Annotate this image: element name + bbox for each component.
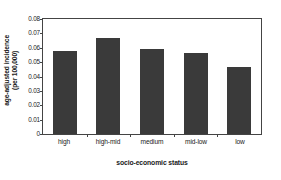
y-axis-tick-label: 0.04 (28, 72, 40, 79)
y-axis-tick-mark (40, 77, 43, 78)
x-axis-tick-label: low (218, 138, 262, 146)
x-axis-tick-label: high-mid (86, 138, 130, 146)
y-axis-tick-mark (40, 48, 43, 49)
y-axis-tick-label: 0.01 (28, 115, 40, 122)
y-axis-tick-label: 0.02 (28, 101, 40, 108)
bar (53, 51, 77, 134)
y-axis-tick-mark (40, 105, 43, 106)
x-axis-tick-label: medium (130, 138, 174, 146)
x-axis-tick-label: mid-low (174, 138, 218, 146)
y-axis-title-line1: age-adjusted incidence (3, 35, 11, 106)
x-axis-tick-mark (87, 134, 88, 137)
x-axis-tick-mark (130, 134, 131, 137)
bar (184, 53, 208, 134)
y-axis-tick-label: 0.08 (28, 15, 40, 22)
y-axis-tick-label: 0 (37, 130, 40, 137)
bar-slot (43, 19, 87, 134)
y-axis-tick-mark (40, 91, 43, 92)
bar-slot (87, 19, 131, 134)
y-axis-tick-mark (40, 33, 43, 34)
x-axis-tick-mark (217, 134, 218, 137)
x-axis-tick-labels: highhigh-midmediummid-lowlow (42, 138, 262, 146)
y-axis-tick-label: 0.05 (28, 58, 40, 65)
y-axis-tick-labels: 00.010.020.030.040.050.060.070.08 (18, 18, 40, 135)
bar-chart-figure: age-adjusted incidence (per 100,000) 00.… (0, 0, 281, 180)
bar-slot (130, 19, 174, 134)
x-axis-tick-mark (174, 134, 175, 137)
bar (227, 67, 251, 134)
bar-slot (174, 19, 218, 134)
y-axis-tick-mark (40, 19, 43, 20)
y-axis-tick-mark (40, 134, 43, 135)
y-axis-tick-label: 0.07 (28, 29, 40, 36)
x-axis-tick-label: high (42, 138, 86, 146)
y-axis-tick-label: 0.03 (28, 86, 40, 93)
y-axis-tick-mark (40, 62, 43, 63)
bar (140, 49, 164, 134)
y-axis-tick-mark (40, 120, 43, 121)
y-axis-tick-label: 0.06 (28, 43, 40, 50)
bar-slot (217, 19, 261, 134)
plot-area (42, 18, 262, 135)
x-axis-title: socio-economic status (42, 159, 262, 166)
bar-series (43, 19, 261, 134)
bar (96, 38, 120, 134)
